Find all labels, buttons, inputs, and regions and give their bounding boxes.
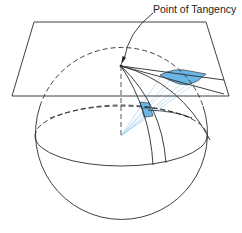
equator-front [35, 136, 207, 166]
tangent-plane [12, 22, 229, 96]
gnomonic-projection-diagram: Point of Tangency [0, 0, 242, 233]
sphere-outline [35, 106, 207, 219]
tangency-label: Point of Tangency [153, 3, 237, 15]
tangency-point [120, 65, 123, 68]
tangency-leader-line [124, 13, 153, 60]
arrowhead-icon [121, 56, 126, 65]
